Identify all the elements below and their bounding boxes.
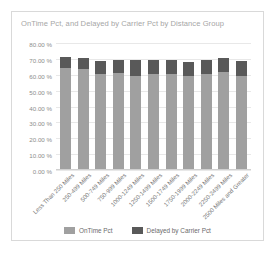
- plot-area: 80.00 %70.00 %60.00 %50.00 %40.00 %30.00…: [56, 43, 251, 170]
- y-axis-tick-label: 0.00 %: [33, 168, 52, 175]
- bar-segment-delayed-by-carrier[interactable]: [148, 60, 159, 73]
- bar-segment-ontime[interactable]: [201, 74, 212, 170]
- bar-column[interactable]: [145, 43, 163, 170]
- stacked-bar[interactable]: [95, 61, 106, 170]
- stacked-bar[interactable]: [113, 60, 124, 170]
- bar-segment-delayed-by-carrier[interactable]: [113, 60, 124, 73]
- bar-column[interactable]: [57, 43, 75, 170]
- y-axis-tick-label: 20.00 %: [29, 136, 52, 143]
- bar-segment-ontime[interactable]: [60, 68, 71, 170]
- legend-swatch-icon: [132, 227, 143, 234]
- bar-segment-ontime[interactable]: [183, 76, 194, 170]
- stacked-bar[interactable]: [183, 62, 194, 170]
- legend-item[interactable]: Delayed by Carrier Pct: [132, 227, 211, 234]
- legend-swatch-icon: [64, 227, 75, 234]
- bar-column[interactable]: [197, 43, 215, 170]
- y-axis-tick-label: 80.00 %: [29, 41, 52, 48]
- bar-column[interactable]: [75, 43, 93, 170]
- gridline: 0.00 %: [56, 170, 251, 171]
- bar-segment-delayed-by-carrier[interactable]: [60, 57, 71, 68]
- x-axis-line: [56, 169, 251, 170]
- y-axis-tick-label: 10.00 %: [29, 152, 52, 159]
- bar-segment-ontime[interactable]: [78, 69, 89, 170]
- x-axis-labels: Less Than 250 Miles250-499 Miles500-749 …: [56, 172, 251, 227]
- bar-segment-delayed-by-carrier[interactable]: [201, 60, 212, 73]
- legend-label: Delayed by Carrier Pct: [147, 227, 211, 234]
- bar-segment-delayed-by-carrier[interactable]: [183, 62, 194, 75]
- stacked-bar[interactable]: [236, 61, 247, 170]
- y-axis-tick-label: 70.00 %: [29, 56, 52, 63]
- bar-segment-delayed-by-carrier[interactable]: [236, 61, 247, 75]
- bar-column[interactable]: [127, 43, 145, 170]
- stacked-bar[interactable]: [218, 58, 229, 170]
- stacked-bar[interactable]: [78, 58, 89, 170]
- chart-legend: OnTime PctDelayed by Carrier Pct: [12, 227, 263, 234]
- y-axis-tick-label: 30.00 %: [29, 120, 52, 127]
- bar-segment-ontime[interactable]: [236, 76, 247, 170]
- legend-item[interactable]: OnTime Pct: [64, 227, 113, 234]
- stacked-bar[interactable]: [201, 60, 212, 170]
- bar-column[interactable]: [232, 43, 250, 170]
- y-axis-tick-label: 40.00 %: [29, 104, 52, 111]
- stacked-bar[interactable]: [60, 57, 71, 170]
- bar-segment-delayed-by-carrier[interactable]: [218, 58, 229, 71]
- bar-column[interactable]: [215, 43, 233, 170]
- stacked-bar[interactable]: [130, 60, 141, 170]
- bar-column[interactable]: [162, 43, 180, 170]
- bar-segment-ontime[interactable]: [166, 74, 177, 170]
- bar-segment-ontime[interactable]: [218, 72, 229, 170]
- bar-segment-delayed-by-carrier[interactable]: [130, 60, 141, 75]
- bar-segment-delayed-by-carrier[interactable]: [95, 61, 106, 74]
- bar-segment-ontime[interactable]: [148, 74, 159, 170]
- bar-column[interactable]: [92, 43, 110, 170]
- bar-segment-ontime[interactable]: [95, 74, 106, 170]
- bar-segment-ontime[interactable]: [130, 76, 141, 170]
- chart-card: OnTime Pct, and Delayed by Carrier Pct b…: [11, 11, 264, 241]
- y-axis-tick-label: 60.00 %: [29, 72, 52, 79]
- bar-column[interactable]: [110, 43, 128, 170]
- legend-label: OnTime Pct: [79, 227, 113, 234]
- y-axis-tick-label: 50.00 %: [29, 88, 52, 95]
- bar-segment-delayed-by-carrier[interactable]: [78, 58, 89, 69]
- bar-segment-ontime[interactable]: [113, 73, 124, 170]
- bar-group: [56, 43, 251, 170]
- bar-column[interactable]: [180, 43, 198, 170]
- bar-segment-delayed-by-carrier[interactable]: [166, 60, 177, 73]
- stacked-bar[interactable]: [148, 60, 159, 170]
- page-title: OnTime Pct, and Delayed by Carrier Pct b…: [21, 19, 224, 28]
- stacked-bar[interactable]: [166, 60, 177, 170]
